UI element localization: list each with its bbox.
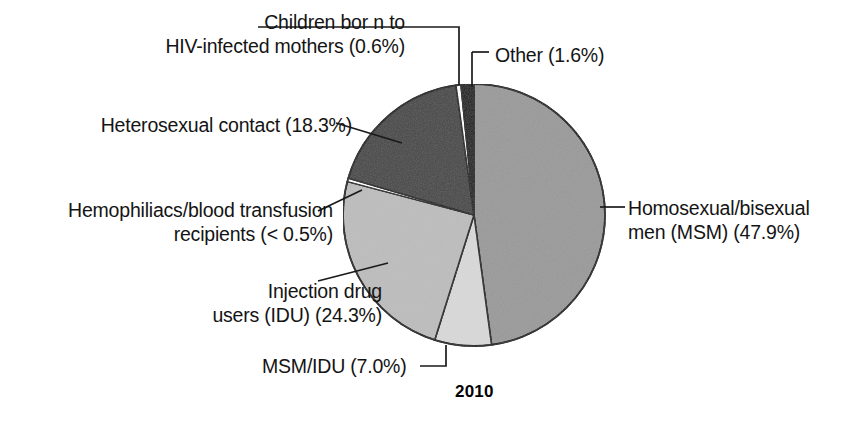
- chart-year-caption: 2010: [455, 382, 494, 402]
- label-idu-line1: Injection drug: [268, 280, 382, 302]
- label-children-line1: Children bor n to: [264, 11, 405, 33]
- label-hemophiliacs-line1: Hemophiliacs/blood transfusion: [68, 199, 333, 221]
- pie-chart-figure: Children bor n toHIV-infected mothers (0…: [0, 0, 856, 423]
- label-injection-drug-users: Injection drugusers (IDU) (24.3%): [150, 279, 382, 327]
- label-msm-line2: men (MSM) (47.9%): [628, 221, 800, 243]
- label-heterosexual-line1: Heterosexual contact (18.3%): [101, 114, 352, 136]
- label-hemophiliacs-line2: recipients (< 0.5%): [174, 223, 333, 245]
- label-children-born-to-hiv-mothers: Children bor n toHIV-infected mothers (0…: [155, 10, 405, 58]
- label-heterosexual-contact: Heterosexual contact (18.3%): [62, 113, 352, 137]
- pie-slice-msm[interactable]: [474, 84, 605, 345]
- label-other-line1: Other (1.6%): [495, 44, 604, 66]
- label-hemophiliacs-blood-transfusion: Hemophiliacs/blood transfusionrecipients…: [8, 198, 333, 246]
- label-idu-line2: users (IDU) (24.3%): [212, 304, 382, 326]
- label-msm-line1: Homosexual/bisexual: [628, 197, 810, 219]
- label-other: Other (1.6%): [495, 43, 715, 67]
- label-homosexual-bisexual-men: Homosexual/bisexualmen (MSM) (47.9%): [628, 196, 853, 244]
- pie-slices-group: [343, 84, 605, 346]
- label-children-line2: HIV-infected mothers (0.6%): [165, 35, 405, 57]
- label-msm-idu-line1: MSM/IDU (7.0%): [262, 355, 407, 377]
- label-msm-idu: MSM/IDU (7.0%): [262, 354, 492, 378]
